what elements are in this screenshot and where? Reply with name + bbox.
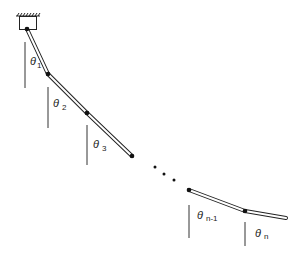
joint-pivot: [25, 27, 30, 32]
joint-3-end: [130, 154, 135, 159]
link-n: [245, 211, 286, 218]
ellipsis-dots: [154, 166, 176, 182]
joints: [25, 27, 248, 214]
ceiling-support: [16, 13, 40, 16]
label-theta-n: θn: [255, 227, 268, 241]
label-theta-3: θ3: [93, 138, 107, 153]
links: [27, 29, 286, 218]
label-theta-2: θ2: [53, 97, 67, 112]
angle-labels: θ1 θ2 θ3 θn-1 θn: [30, 55, 268, 241]
label-theta-n-1: θn-1: [197, 209, 218, 223]
joint-n: [243, 209, 248, 214]
link-n-1: [189, 190, 245, 211]
pendulum-diagram: θ1 θ2 θ3 θn-1 θn: [0, 0, 296, 254]
joint-n-1-start: [187, 188, 192, 193]
joint-2: [85, 111, 90, 116]
joint-1: [46, 72, 51, 77]
